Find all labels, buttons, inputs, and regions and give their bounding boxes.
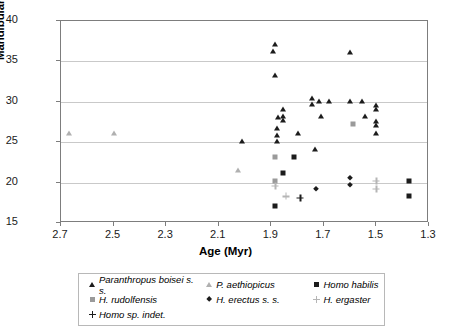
plus-marker-icon bbox=[313, 296, 320, 303]
triangle-marker-icon bbox=[309, 95, 315, 100]
legend-diamond-marker-icon bbox=[202, 297, 216, 301]
data-point bbox=[347, 49, 353, 54]
data-point bbox=[373, 186, 380, 193]
y-tick-label: 35 bbox=[0, 53, 18, 65]
legend-label: H. ergaster bbox=[324, 294, 371, 305]
x-tick-label: 1.9 bbox=[250, 228, 290, 240]
data-point bbox=[362, 114, 368, 119]
triangle-marker-icon bbox=[316, 98, 322, 103]
square-marker-icon bbox=[90, 297, 95, 302]
triangle-marker-icon bbox=[111, 130, 117, 135]
triangle-marker-icon bbox=[89, 282, 95, 287]
plus-marker-icon bbox=[297, 194, 304, 201]
legend-triangle-marker-icon bbox=[85, 282, 99, 287]
legend-label: H. erectus s. s. bbox=[216, 294, 279, 305]
triangle-marker-icon bbox=[270, 48, 276, 53]
x-tick-mark bbox=[323, 222, 324, 226]
legend-item[interactable]: H. rudolfensis bbox=[79, 294, 202, 305]
legend-plus-marker-icon bbox=[310, 296, 324, 303]
triangle-marker-icon bbox=[359, 98, 365, 103]
data-point bbox=[326, 98, 332, 103]
y-tick-label: 40 bbox=[0, 13, 18, 25]
data-point bbox=[274, 139, 280, 144]
triangle-marker-icon bbox=[312, 147, 318, 152]
legend-plus-marker-icon bbox=[85, 311, 99, 318]
triangle-marker-icon bbox=[362, 114, 368, 119]
x-tick-label: 2.1 bbox=[198, 228, 238, 240]
legend-label: Homo habilis bbox=[324, 279, 379, 290]
data-point bbox=[273, 154, 278, 159]
legend-item[interactable]: Paranthropus boisei s. s. bbox=[79, 274, 202, 296]
data-point bbox=[373, 107, 379, 112]
data-point bbox=[272, 73, 278, 78]
x-axis-title: Age (Myr) bbox=[0, 245, 451, 257]
data-point bbox=[273, 204, 278, 209]
square-marker-icon bbox=[314, 282, 319, 287]
square-marker-icon bbox=[273, 154, 278, 159]
diamond-marker-icon bbox=[313, 186, 319, 192]
triangle-marker-icon bbox=[272, 41, 278, 46]
gridline bbox=[61, 102, 427, 103]
data-point bbox=[274, 132, 280, 137]
triangle-marker-icon bbox=[347, 98, 353, 103]
triangle-marker-icon bbox=[347, 49, 353, 54]
triangle-marker-icon bbox=[66, 131, 72, 136]
plus-marker-icon bbox=[272, 182, 279, 189]
y-tick-label: 15 bbox=[0, 215, 18, 227]
data-point bbox=[407, 178, 412, 183]
y-tick-label: 20 bbox=[0, 175, 18, 187]
square-marker-icon bbox=[350, 122, 355, 127]
legend-label: H. rudolfensis bbox=[99, 294, 157, 305]
data-point bbox=[272, 182, 279, 189]
data-point bbox=[373, 130, 379, 135]
x-tick-mark bbox=[270, 222, 271, 226]
data-point bbox=[309, 95, 315, 100]
data-point bbox=[373, 177, 380, 184]
x-tick-mark bbox=[218, 222, 219, 226]
legend-item[interactable]: H. erectus s. s. bbox=[202, 294, 309, 305]
legend-label: P. aethiopicus bbox=[216, 279, 274, 290]
triangle-marker-icon bbox=[373, 107, 379, 112]
data-point bbox=[373, 123, 379, 128]
legend-label: Paranthropus boisei s. s. bbox=[99, 274, 202, 296]
triangle-marker-icon bbox=[239, 139, 245, 144]
data-point bbox=[407, 194, 412, 199]
data-point bbox=[282, 193, 289, 200]
legend-item[interactable]: Homo sp. indet. bbox=[79, 309, 203, 320]
data-point bbox=[280, 118, 286, 123]
data-point bbox=[359, 98, 365, 103]
legend-item[interactable]: Homo habilis bbox=[310, 279, 385, 290]
y-tick-label: 30 bbox=[0, 94, 18, 106]
plus-marker-icon bbox=[373, 177, 380, 184]
plot-area bbox=[60, 20, 428, 222]
x-tick-label: 2.5 bbox=[93, 228, 133, 240]
data-point bbox=[270, 48, 276, 53]
data-point bbox=[291, 154, 296, 159]
data-point bbox=[347, 98, 353, 103]
legend: Paranthropus boisei s. s.P. aethiopicusH… bbox=[78, 273, 385, 326]
triangle-marker-icon bbox=[295, 131, 301, 136]
x-tick-label: 1.7 bbox=[303, 228, 343, 240]
legend-item[interactable]: P. aethiopicus bbox=[202, 279, 309, 290]
x-tick-mark bbox=[60, 222, 61, 226]
legend-row: Paranthropus boisei s. s.P. aethiopicusH… bbox=[79, 277, 384, 292]
plus-marker-icon bbox=[89, 311, 96, 318]
triangle-marker-icon bbox=[274, 139, 280, 144]
x-tick-mark bbox=[113, 222, 114, 226]
data-point bbox=[239, 139, 245, 144]
legend-square-marker-icon bbox=[85, 297, 99, 302]
data-point bbox=[312, 147, 318, 152]
plus-marker-icon bbox=[373, 186, 380, 193]
legend-item[interactable]: H. ergaster bbox=[310, 294, 385, 305]
data-point bbox=[281, 170, 286, 175]
scatter-chart-figure: Mandibular corpus breadth (mm) 152025303… bbox=[0, 0, 451, 332]
x-tick-label: 1.5 bbox=[355, 228, 395, 240]
x-tick-label: 2.3 bbox=[145, 228, 185, 240]
data-point bbox=[280, 107, 286, 112]
legend-row: Homo sp. indet. bbox=[79, 307, 384, 322]
triangle-marker-icon bbox=[272, 73, 278, 78]
data-point bbox=[66, 131, 72, 136]
triangle-marker-icon bbox=[373, 130, 379, 135]
data-point bbox=[272, 41, 278, 46]
diamond-marker-icon bbox=[347, 175, 353, 181]
